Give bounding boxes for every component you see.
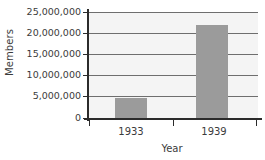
- y-tick-label-20000000: 20,000,000: [3, 28, 81, 38]
- plot-area: [89, 12, 258, 118]
- x-tick-label-1933: 1933: [101, 126, 161, 137]
- gridline-20000000: [89, 33, 258, 34]
- bar-1939: [196, 25, 228, 118]
- y-tick-0: [83, 118, 89, 119]
- x-tick-right: [256, 120, 257, 126]
- gridline-15000000: [89, 54, 258, 55]
- x-tick-middle: [173, 120, 174, 126]
- bar-1933: [115, 98, 147, 118]
- y-tick-15000000: [83, 54, 89, 55]
- gridline-25000000: [89, 12, 258, 13]
- y-tick-10000000: [83, 75, 89, 76]
- y-tick-label-25000000: 25,000,000: [3, 7, 81, 17]
- gridline-10000000: [89, 75, 258, 76]
- bar-chart: Members 25,000,000 20,000,000 15,000,000…: [0, 0, 265, 160]
- x-tick-left: [89, 120, 90, 126]
- x-axis-title: Year: [92, 143, 252, 154]
- x-tick-label-1939: 1939: [184, 126, 244, 137]
- y-tick-label-15000000: 15,000,000: [3, 49, 81, 59]
- y-tick-label-5000000: 5,000,000: [3, 91, 81, 101]
- y-tick-label-0: 0: [3, 113, 81, 123]
- y-axis-line: [87, 9, 89, 121]
- y-tick-20000000: [83, 33, 89, 34]
- y-tick-label-10000000: 10,000,000: [3, 70, 81, 80]
- y-tick-5000000: [83, 96, 89, 97]
- y-tick-25000000: [83, 12, 89, 13]
